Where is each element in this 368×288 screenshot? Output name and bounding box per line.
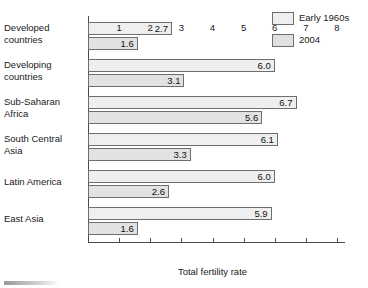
category-label-east-asia: East Asia: [4, 213, 86, 225]
category-label-line2: countries: [4, 34, 86, 46]
scan-artifact: [4, 281, 60, 285]
category-label-line1: East Asia: [4, 213, 86, 225]
x-tick-8: [337, 238, 338, 243]
category-label-latin-america: Latin America: [4, 176, 86, 188]
x-tick-label-7: 7: [296, 22, 316, 33]
x-tick-4: [213, 238, 214, 243]
x-axis-title: Total fertility rate: [88, 266, 337, 277]
bar-value-label: 6.1: [88, 133, 278, 146]
bar-value-label: 5.6: [88, 111, 262, 124]
bar-value-label: 6.0: [88, 59, 275, 72]
category-label-developed-countries: Developed countries: [4, 22, 86, 45]
bar-value-label: 1.6: [88, 222, 138, 235]
x-tick-label-1: 1: [109, 22, 129, 33]
x-tick-label-5: 5: [234, 22, 254, 33]
plot-area: 2.7 1.6 6.0 3.1 6.7 5.6: [88, 16, 337, 243]
bar-value-label: 6.0: [88, 170, 275, 183]
category-label-line2: Africa: [4, 108, 86, 120]
category-label-developing-countries: Developing countries: [4, 59, 86, 82]
category-label-south-central-asia: South Central Asia: [4, 133, 86, 156]
bar-value-label: 6.7: [88, 96, 297, 109]
x-tick-2: [150, 238, 151, 243]
x-tick-label-8: 8: [327, 22, 347, 33]
category-label-line1: Developing: [4, 59, 86, 71]
bar-value-label: 2.6: [88, 185, 169, 198]
category-label-line2: countries: [4, 71, 86, 83]
x-tick-label-3: 3: [171, 22, 191, 33]
category-label-line1: South Central: [4, 133, 86, 145]
fertility-rate-bar-chart: Early 1960s 2004 Developed countries Dev…: [0, 0, 368, 288]
x-tick-5: [244, 238, 245, 243]
category-label-line2: Asia: [4, 145, 86, 157]
category-label-line1: Sub-Saharan: [4, 96, 86, 108]
x-tick-1: [119, 238, 120, 243]
x-tick-3: [181, 238, 182, 243]
bar-value-label: 3.3: [88, 148, 191, 161]
bar-value-label: 3.1: [88, 74, 184, 87]
x-tick-label-6: 6: [265, 22, 285, 33]
x-tick-7: [306, 238, 307, 243]
category-label-sub-saharan-africa: Sub-Saharan Africa: [4, 96, 86, 119]
bar-value-label: 5.9: [88, 207, 272, 220]
x-tick-label-2: 2: [140, 22, 160, 33]
category-label-line1: Developed: [4, 22, 86, 34]
x-tick-6: [275, 238, 276, 243]
bar-value-label: 1.6: [88, 37, 138, 50]
category-label-line1: Latin America: [4, 176, 86, 188]
x-tick-label-4: 4: [203, 22, 223, 33]
